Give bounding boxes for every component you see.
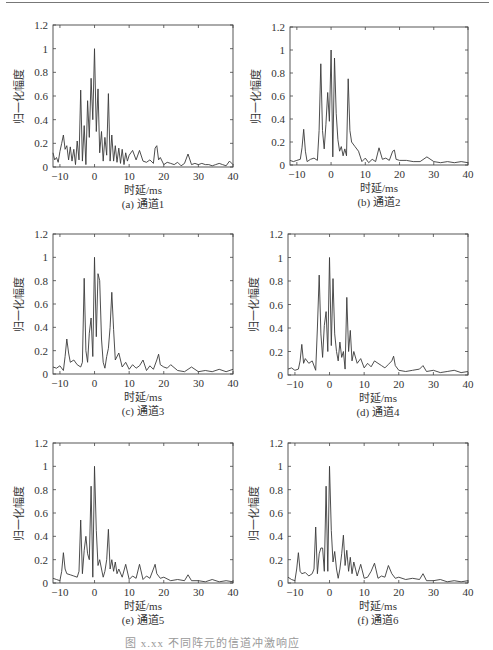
x-tick-label: −10 xyxy=(286,586,304,598)
x-axis-label: 时延/ms xyxy=(359,600,397,612)
y-tick-label: 0.6 xyxy=(269,507,283,519)
data-line xyxy=(288,466,468,582)
x-tick-label: 0 xyxy=(327,586,333,598)
x-tick-label: 30 xyxy=(428,586,440,598)
y-tick-label: 1.2 xyxy=(269,437,283,449)
x-tick-label: 40 xyxy=(463,586,475,598)
y-tick-label: 0.8 xyxy=(269,484,283,496)
y-axis-label: 归一化幅度 xyxy=(247,486,260,541)
figure-caption: 图 x.xx 不同阵元的信道冲激响应 xyxy=(125,634,300,650)
y-tick-label: 0.4 xyxy=(269,530,283,542)
x-tick-label: 10 xyxy=(359,586,371,598)
y-tick-label: 1 xyxy=(278,460,284,472)
x-tick-label: 20 xyxy=(393,586,405,598)
y-tick-label: 0.2 xyxy=(269,554,283,566)
y-tick-label: 0 xyxy=(278,577,284,589)
plot-frame xyxy=(288,443,468,583)
subfigure-caption: (f) 通道6 xyxy=(357,613,399,627)
